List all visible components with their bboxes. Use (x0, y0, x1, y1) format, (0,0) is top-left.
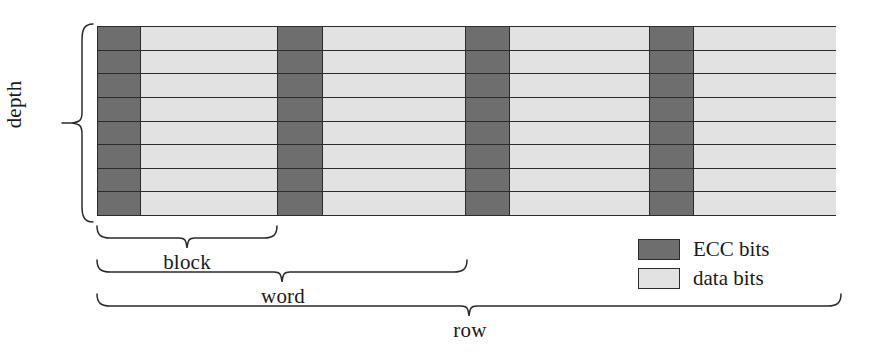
ecc-bits-block-2 (278, 145, 323, 168)
data-bits-block-1 (141, 145, 278, 168)
data-bits-swatch (638, 268, 680, 289)
ecc-bits-block-2 (278, 51, 323, 74)
ecc-bits-block-4 (650, 98, 694, 121)
ecc-bits-block-1 (98, 27, 141, 50)
table-row (98, 27, 835, 51)
ecc-bits-block-3 (466, 145, 510, 168)
table-row (98, 145, 835, 169)
ecc-bits-block-1 (98, 51, 141, 74)
table-row (98, 169, 835, 193)
ecc-bits-block-4 (650, 122, 694, 145)
data-bits-block-2 (323, 74, 466, 97)
legend-label-data-bits: data bits (693, 268, 764, 289)
data-bits-block-2 (323, 51, 466, 74)
depth-bracket (60, 18, 100, 228)
block-bracket (95, 224, 279, 250)
table-row (98, 51, 835, 75)
data-bits-block-3 (510, 122, 650, 145)
ecc-bits-block-4 (650, 145, 694, 168)
data-bits-block-4 (694, 51, 836, 74)
ecc-bits-block-4 (650, 51, 694, 74)
ecc-bits-swatch (638, 239, 680, 260)
data-bits-block-3 (510, 98, 650, 121)
ecc-bits-block-1 (98, 169, 141, 192)
row-bracket (95, 292, 843, 318)
ecc-bits-block-2 (278, 192, 323, 215)
ecc-bits-block-2 (278, 169, 323, 192)
ecc-bits-block-3 (466, 51, 510, 74)
word-bracket (95, 258, 469, 284)
ecc-bits-block-1 (98, 122, 141, 145)
legend: ECC bits data bits (638, 236, 769, 294)
data-bits-block-3 (510, 169, 650, 192)
data-bits-block-3 (510, 74, 650, 97)
ecc-bits-block-2 (278, 27, 323, 50)
legend-item-data-bits: data bits (638, 265, 769, 291)
ecc-bits-block-3 (466, 27, 510, 50)
table-row (98, 74, 835, 98)
data-bits-block-4 (694, 98, 836, 121)
memory-grid (97, 26, 836, 216)
data-bits-block-1 (141, 51, 278, 74)
ecc-memory-diagram: depth (0, 0, 882, 357)
table-row (98, 122, 835, 146)
data-bits-block-1 (141, 122, 278, 145)
data-bits-block-2 (323, 98, 466, 121)
ecc-bits-block-1 (98, 192, 141, 215)
depth-label: depth (4, 70, 25, 140)
ecc-bits-block-2 (278, 122, 323, 145)
row-label: row (97, 320, 843, 341)
table-row (98, 98, 835, 122)
data-bits-block-1 (141, 74, 278, 97)
ecc-bits-block-3 (466, 169, 510, 192)
ecc-bits-block-3 (466, 98, 510, 121)
data-bits-block-3 (510, 145, 650, 168)
data-bits-block-4 (694, 192, 836, 215)
data-bits-block-1 (141, 98, 278, 121)
data-bits-block-1 (141, 192, 278, 215)
ecc-bits-block-1 (98, 145, 141, 168)
ecc-bits-block-3 (466, 122, 510, 145)
data-bits-block-1 (141, 169, 278, 192)
data-bits-block-2 (323, 145, 466, 168)
data-bits-block-1 (141, 27, 278, 50)
ecc-bits-block-3 (466, 74, 510, 97)
data-bits-block-4 (694, 145, 836, 168)
data-bits-block-4 (694, 169, 836, 192)
ecc-bits-block-1 (98, 98, 141, 121)
data-bits-block-2 (323, 27, 466, 50)
table-row (98, 192, 835, 215)
ecc-bits-block-4 (650, 27, 694, 50)
data-bits-block-3 (510, 27, 650, 50)
data-bits-block-4 (694, 74, 836, 97)
ecc-bits-block-3 (466, 192, 510, 215)
ecc-bits-block-4 (650, 169, 694, 192)
ecc-bits-block-2 (278, 74, 323, 97)
data-bits-block-4 (694, 122, 836, 145)
data-bits-block-4 (694, 27, 836, 50)
data-bits-block-2 (323, 122, 466, 145)
legend-item-ecc-bits: ECC bits (638, 236, 769, 262)
ecc-bits-block-2 (278, 98, 323, 121)
ecc-bits-block-4 (650, 192, 694, 215)
ecc-bits-block-4 (650, 74, 694, 97)
data-bits-block-2 (323, 169, 466, 192)
legend-label-ecc-bits: ECC bits (693, 239, 769, 260)
data-bits-block-3 (510, 192, 650, 215)
ecc-bits-block-1 (98, 74, 141, 97)
data-bits-block-3 (510, 51, 650, 74)
data-bits-block-2 (323, 192, 466, 215)
